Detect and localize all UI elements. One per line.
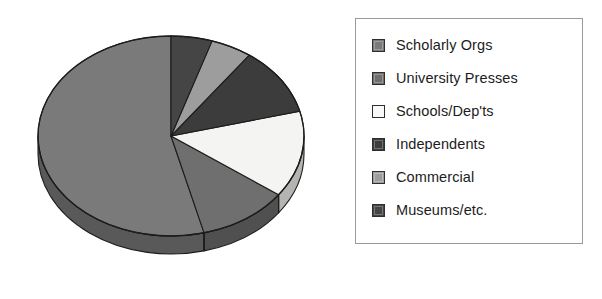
- legend-item-museums-etc[interactable]: Museums/etc.: [356, 194, 582, 227]
- legend-swatch-icon: [372, 138, 385, 151]
- legend-swatch-icon: [372, 72, 385, 85]
- legend-item-label: Independents: [396, 137, 485, 152]
- legend-item-schools-depts[interactable]: Schools/Dep'ts: [356, 95, 582, 128]
- legend-item-university-presses[interactable]: University Presses: [356, 62, 582, 95]
- legend-item-label: Museums/etc.: [396, 203, 487, 218]
- legend-item-commercial[interactable]: Commercial: [356, 161, 582, 194]
- legend-item-label: University Presses: [396, 71, 518, 86]
- chart-legend: Scholarly Orgs University Presses School…: [355, 18, 583, 244]
- legend-item-label: Commercial: [396, 170, 474, 185]
- legend-swatch-icon: [372, 171, 385, 184]
- legend-item-scholarly-orgs[interactable]: Scholarly Orgs: [356, 29, 582, 62]
- pie-chart: [0, 0, 350, 299]
- legend-swatch-icon: [372, 39, 385, 52]
- legend-item-label: Scholarly Orgs: [396, 38, 493, 53]
- legend-item-independents[interactable]: Independents: [356, 128, 582, 161]
- legend-item-label: Schools/Dep'ts: [396, 104, 494, 119]
- pie-chart-svg: [0, 0, 350, 299]
- legend-swatch-icon: [372, 105, 385, 118]
- chart-canvas: Scholarly Orgs University Presses School…: [0, 0, 602, 299]
- legend-swatch-icon: [372, 204, 385, 217]
